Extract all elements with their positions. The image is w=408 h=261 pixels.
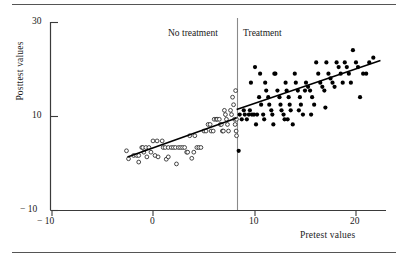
data-point [238,112,242,116]
data-point [137,160,141,164]
data-point [223,108,227,112]
data-point [269,108,273,112]
plot-canvas [0,0,408,261]
data-point [193,134,197,138]
x-tick-label-0: 0 [150,216,155,226]
data-point [190,156,194,160]
data-point [186,150,190,154]
data-point [262,117,266,121]
data-point [258,72,262,76]
data-point [166,155,170,159]
data-point [343,60,347,64]
data-point [229,108,233,112]
data-point [155,139,159,143]
data-point [289,108,293,112]
data-point [249,81,253,85]
data-point [211,129,215,133]
data-point [291,122,295,126]
data-point [299,103,303,107]
data-point [149,150,153,154]
data-point [224,113,228,117]
data-point [308,89,312,93]
data-point [281,112,285,116]
data-point [297,108,301,112]
data-point [264,89,268,93]
data-point [354,60,358,64]
data-point [335,60,339,64]
data-point [298,95,302,99]
data-point [208,123,212,127]
data-point [151,139,155,143]
data-point [235,134,239,138]
data-point [243,112,247,116]
y-tick-label-30: 30 [32,16,42,26]
regression-line [237,61,381,110]
data-point [248,108,252,112]
data-point [286,117,290,121]
data-point [226,123,230,127]
data-point [242,108,246,112]
data-point [301,112,305,116]
data-point [199,146,203,150]
data-point [232,103,236,107]
data-point [310,95,314,99]
data-point [227,129,231,133]
data-point [237,149,241,153]
data-point [125,149,129,153]
data-points-no-treatment [125,89,239,166]
regression-line [128,118,237,157]
data-point [358,95,362,99]
data-point [272,72,276,76]
data-point [288,103,292,107]
data-point [332,85,336,89]
data-point [127,157,131,161]
data-points-treatment [237,48,376,153]
data-point [330,81,334,85]
data-point [234,129,238,133]
data-point [284,81,288,85]
data-point [294,81,298,85]
data-point [267,103,271,107]
data-point [364,72,368,76]
x-axis-title: Pretest values [300,230,355,240]
data-point [270,112,274,116]
data-point [341,81,345,85]
data-point [351,48,355,52]
y-tick-label-minus-10: − 10 [20,204,37,214]
data-point [293,72,297,76]
annotation-treatment: Treatment [243,28,282,38]
data-point [271,122,275,126]
data-point [259,103,263,107]
data-point [287,95,291,99]
data-point [345,65,349,69]
data-point [314,60,318,64]
data-point [304,81,308,85]
data-point [253,65,257,69]
data-point [160,139,164,143]
data-point [233,123,237,127]
data-point [349,81,353,85]
data-point [303,89,307,93]
data-point [145,155,149,159]
data-point [257,95,261,99]
data-point [217,117,221,121]
data-point [320,85,324,89]
data-point [337,65,341,69]
data-point [275,89,279,93]
data-point [183,146,187,150]
data-point [234,89,238,93]
data-point [240,117,244,121]
data-point [221,129,225,133]
data-point [278,103,282,107]
regression-fit-lines [128,61,381,157]
x-tick-label-minus-10: − 10 [37,216,54,226]
data-point [263,81,267,85]
data-point [309,112,313,116]
data-point [261,112,265,116]
data-point [322,89,326,93]
data-point [312,103,316,107]
data-point [192,150,196,154]
data-point [371,56,375,60]
data-point [230,113,234,117]
data-point [255,112,259,116]
